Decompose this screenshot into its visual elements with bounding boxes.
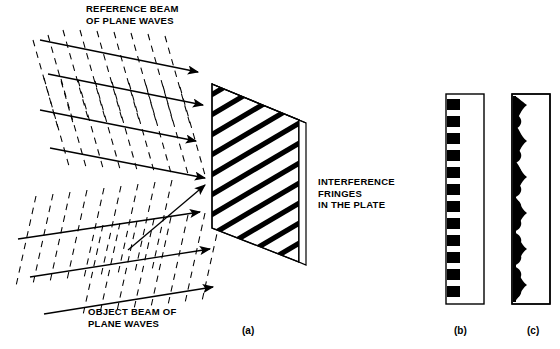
panel-c-caption: (c) [527,325,539,336]
panel-b-caption: (b) [454,325,467,336]
reference-beam-group [33,30,205,178]
figure-root: REFERENCE BEAM OF PLANE WAVES OBJECT BEA… [0,0,560,349]
panel-a-plate [196,32,318,344]
object-beam-group [16,180,222,315]
interference-fringes-label: INTERFERENCE FRINGES IN THE PLATE [318,176,395,211]
panel-a-caption: (a) [242,325,254,336]
plate-side-edge [299,120,306,265]
reference-beam-label: REFERENCE BEAM OF PLANE WAVES [86,3,179,26]
interference-diagram-svg [0,0,560,349]
object-beam-rays [18,185,213,314]
panel-c-strip [509,94,550,304]
object-beam-label: OBJECT BEAM OF PLANE WAVES [88,306,176,329]
panel-b-strip [446,94,484,304]
